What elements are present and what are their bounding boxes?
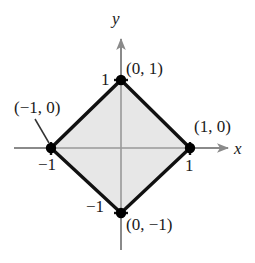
point-label-bottom: (0, −1) [126,216,172,233]
point-label-left: (−1, 0) [14,99,60,116]
tick-label-x-right: 1 [185,157,194,174]
point-label-right: (1, 0) [194,118,231,135]
x-axis-label: x [234,140,242,157]
coordinate-plane-figure: y x (0, 1) (−1, 0) (1, 0) (0, −1) 1 −1 1… [0,0,255,263]
leader-line-left-point [35,119,49,143]
vertex-dot-right [185,143,195,153]
vertex-dot-left [46,143,56,153]
y-axis-label: y [112,10,120,27]
tick-label-y-bottom: −1 [86,198,104,215]
vertex-dot-top [116,75,126,85]
tick-label-x-left: −1 [38,156,56,173]
vertex-dot-bottom [116,208,126,218]
tick-label-y-top: 1 [101,71,110,88]
point-label-top: (0, 1) [126,60,163,77]
